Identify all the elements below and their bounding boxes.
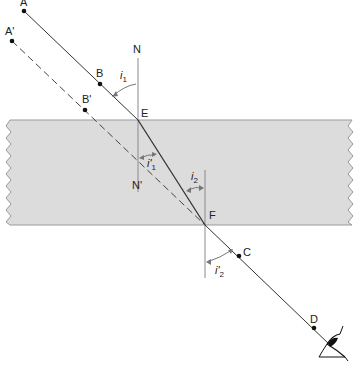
point-B bbox=[98, 82, 103, 87]
label-N-prime: N' bbox=[132, 180, 142, 191]
point-C bbox=[237, 254, 242, 259]
label-A: A bbox=[20, 0, 27, 8]
point-A-prime bbox=[10, 39, 15, 44]
label-E: E bbox=[141, 108, 148, 119]
label-angle-i2-prime: i'2 bbox=[215, 265, 224, 279]
point-A bbox=[22, 9, 27, 14]
arrowhead-icon bbox=[112, 91, 118, 97]
point-D bbox=[312, 326, 317, 331]
label-B: B bbox=[96, 68, 103, 79]
point-B-prime bbox=[83, 108, 88, 113]
incident-ray bbox=[24, 11, 138, 120]
label-angle-i1-prime: i'1 bbox=[147, 158, 156, 172]
arrowhead-icon bbox=[206, 259, 211, 265]
label-B-prime: B' bbox=[82, 94, 91, 105]
emergent-ray bbox=[205, 225, 330, 345]
refraction-diagram bbox=[0, 0, 359, 367]
eye-icon bbox=[319, 326, 348, 361]
label-F: F bbox=[209, 210, 216, 221]
label-D: D bbox=[310, 314, 318, 325]
glass-slab bbox=[6, 120, 353, 225]
label-C: C bbox=[243, 247, 251, 258]
label-N: N bbox=[133, 44, 141, 55]
label-A-prime: A' bbox=[5, 26, 14, 37]
label-angle-i1: i1 bbox=[120, 70, 127, 84]
label-angle-i2: i2 bbox=[191, 171, 198, 185]
